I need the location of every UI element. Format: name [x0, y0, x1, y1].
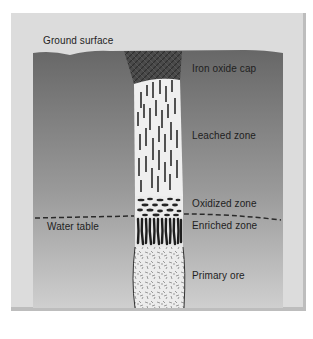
label-leached-zone: Leached zone	[192, 130, 256, 141]
label-water-table: Water table	[47, 221, 99, 232]
primary-ore-zone	[133, 247, 185, 308]
label-primary-ore: Primary ore	[192, 270, 245, 281]
iron-oxide-cap-zone	[124, 51, 182, 84]
label-ground-surface: Ground surface	[43, 35, 113, 46]
cross-section-graphic	[0, 0, 313, 339]
label-iron-oxide-cap: Iron oxide cap	[192, 63, 256, 74]
label-oxidized-zone: Oxidized zone	[192, 198, 257, 209]
label-enriched-zone: Enriched zone	[192, 220, 257, 231]
